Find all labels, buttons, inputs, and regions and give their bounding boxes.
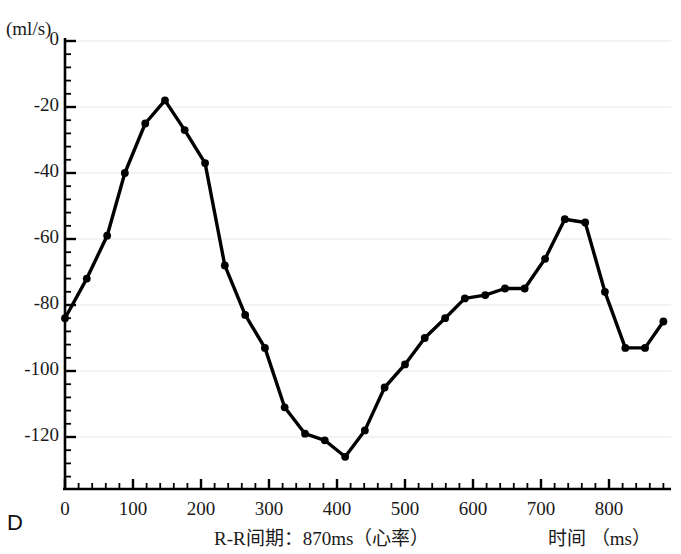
axis-lines	[63, 38, 671, 489]
data-point	[621, 344, 629, 352]
data-point	[141, 120, 149, 128]
x-axis-tick-label: 0	[35, 498, 95, 520]
x-axis-tick-label: 500	[375, 498, 435, 520]
y-axis-tick-label: -40	[0, 160, 59, 182]
gridlines	[65, 41, 671, 437]
panel-letter: D	[7, 510, 23, 536]
y-axis-tick-label: -120	[0, 424, 59, 446]
data-point	[241, 311, 249, 319]
data-point-markers	[61, 97, 667, 461]
data-series-line-0	[65, 100, 663, 456]
data-point	[541, 255, 549, 263]
data-point	[261, 344, 269, 352]
x-axis-title: R-R间期：870ms（心率）	[214, 523, 429, 550]
data-point	[341, 453, 349, 461]
data-point	[361, 427, 369, 435]
data-point	[281, 403, 289, 411]
x-axis-tick-label: 300	[239, 498, 299, 520]
x-axis-tick-label: 200	[171, 498, 231, 520]
x-axis-ticks	[65, 479, 663, 489]
x-axis-tick-label: 100	[103, 498, 163, 520]
y-axis-ticks	[65, 41, 76, 477]
x-axis-unit-label: 时间 （ms）	[548, 523, 651, 550]
data-point	[561, 215, 569, 223]
data-point	[381, 384, 389, 392]
line-chart-plot	[0, 0, 681, 554]
data-point	[121, 169, 129, 177]
data-point	[83, 275, 91, 283]
y-axis-tick-label: -20	[0, 94, 59, 116]
data-point	[201, 159, 209, 167]
data-point	[401, 361, 409, 369]
data-point	[221, 262, 229, 270]
data-point	[441, 314, 449, 322]
data-point	[161, 97, 169, 105]
data-point	[421, 334, 429, 342]
y-axis-tick-label: -80	[0, 292, 59, 314]
data-point	[641, 344, 649, 352]
chart-figure: (ml/s) D R-R间期：870ms（心率） 时间 （ms） 0-20-40…	[0, 0, 681, 554]
data-point	[601, 288, 609, 296]
data-point	[181, 126, 189, 134]
data-point	[581, 219, 589, 227]
y-axis-tick-label: 0	[0, 28, 59, 50]
y-axis-tick-label: -60	[0, 226, 59, 248]
x-axis-tick-label: 800	[579, 498, 639, 520]
data-point	[103, 232, 111, 240]
data-point	[481, 291, 489, 299]
data-point	[501, 285, 509, 293]
x-axis-tick-label: 600	[443, 498, 503, 520]
data-point	[521, 285, 529, 293]
data-point	[301, 430, 309, 438]
data-point	[321, 436, 329, 444]
y-axis-tick-label: -100	[0, 358, 59, 380]
data-point	[461, 295, 469, 303]
data-point	[660, 318, 668, 326]
data-point	[61, 314, 69, 322]
x-axis-tick-label: 700	[511, 498, 571, 520]
x-axis-tick-label: 400	[307, 498, 367, 520]
